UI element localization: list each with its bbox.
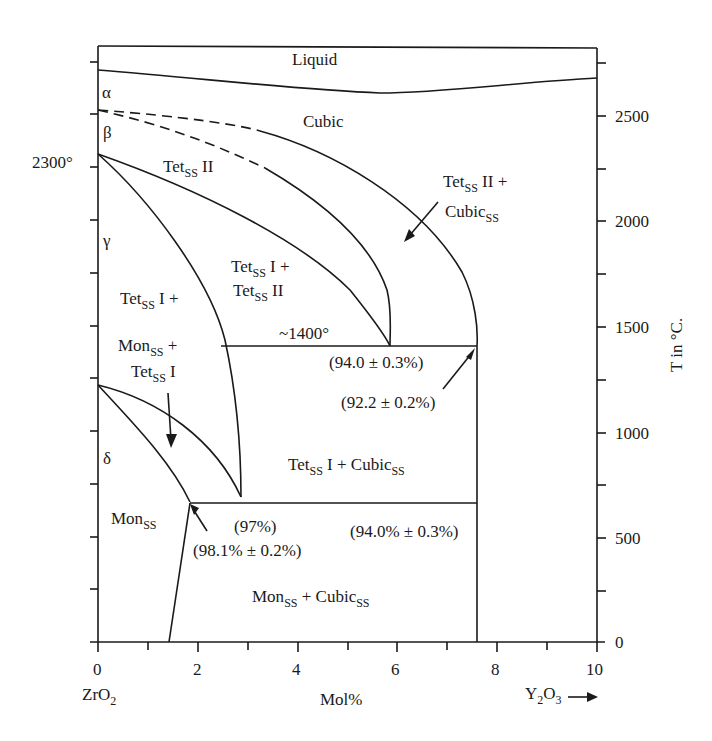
arrow-tet2-cubic [410, 202, 438, 235]
y-tick-0: 0 [615, 633, 624, 652]
region-tet1-tet2-line2: TetSS II [233, 281, 284, 304]
y-tick-1000: 1000 [615, 424, 649, 443]
bottom-ticks [98, 642, 597, 652]
tet1-solvus [98, 154, 241, 497]
x-axis-title: Mol% [320, 690, 363, 709]
x-right-label-y2o3: Y2O3 [525, 684, 562, 707]
phase-beta: β [103, 123, 112, 142]
x-tick-0: 0 [93, 660, 102, 679]
dashed-boundary-upper [98, 110, 260, 131]
label-2300: 2300° [32, 153, 73, 172]
y-tick-500: 500 [615, 529, 641, 548]
tet1-tet2-boundary [98, 154, 390, 346]
arrow-922 [443, 354, 471, 389]
region-cubic: Cubic [303, 112, 344, 131]
x-tick-4: 4 [292, 660, 301, 679]
y-tick-2000: 2000 [615, 212, 649, 231]
right-ticks [597, 63, 606, 591]
y-axis-title: T in °C. [667, 318, 686, 372]
phase-delta: δ [103, 449, 111, 468]
region-tet1-cubic: TetSS I + CubicSS [288, 455, 405, 478]
label-1400: ~1400° [279, 324, 329, 343]
x-left-label-zro2: ZrO2 [82, 685, 116, 708]
region-tet1-tet2-line1: TetSS I + [231, 257, 290, 280]
phase-diagram: Liquid Cubic TetSS II TetSS II + CubicSS… [0, 0, 712, 741]
region-tet1-mon-line2: MonSS + [118, 336, 177, 359]
x-tick-2: 2 [193, 660, 202, 679]
region-mon: MonSS [111, 509, 156, 532]
liquidus-line [98, 70, 597, 93]
region-tet2-cubic-line1: TetSS II + [443, 172, 507, 195]
region-tet2-cubic-line2: CubicSS [445, 202, 499, 225]
x-tick-8: 8 [491, 660, 500, 679]
region-tet1-mon-line1: TetSS I + [120, 289, 179, 312]
top-border [98, 46, 597, 48]
annotation-94-0b: (94.0% ± 0.3%) [350, 522, 458, 541]
x-tick-6: 6 [391, 660, 400, 679]
region-mon-cubic: MonSS + CubicSS [252, 587, 370, 610]
y-tick-2500: 2500 [615, 107, 649, 126]
annotation-98-1: (98.1% ± 0.2%) [193, 541, 301, 560]
annotation-94-0: (94.0 ± 0.3%) [329, 353, 423, 372]
annotation-92-2: (92.2 ± 0.2%) [341, 393, 435, 412]
y-tick-1500: 1500 [615, 318, 649, 337]
region-tet1-mon-line3: TetSS I [131, 362, 176, 385]
mon-boundary [98, 385, 190, 502]
phase-gamma: γ [102, 231, 111, 250]
region-tet2: TetSS II [163, 157, 214, 180]
phase-alpha: α [102, 83, 111, 102]
region-liquid: Liquid [292, 50, 338, 69]
x-tick-10: 10 [586, 660, 603, 679]
left-ticks [90, 62, 98, 589]
annotation-97: (97%) [234, 517, 276, 536]
mon-solvus [169, 503, 190, 642]
